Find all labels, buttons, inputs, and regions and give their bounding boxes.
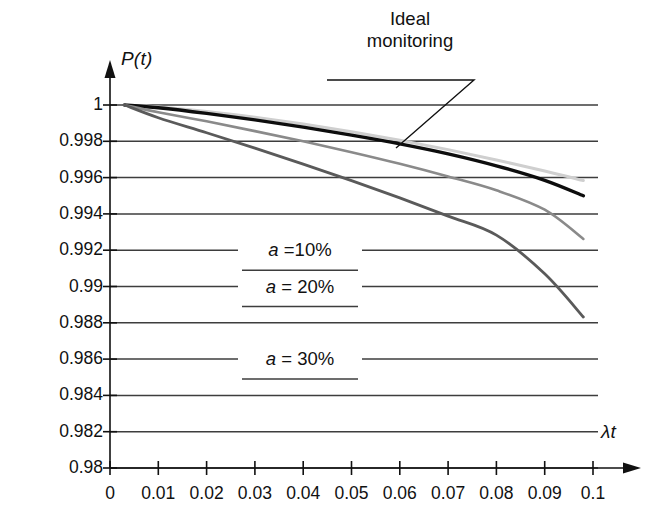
x-tick-label: 0.08 <box>479 485 513 503</box>
y-tick-label-wrap: 1 <box>0 105 103 106</box>
legend-value: =10% <box>279 239 332 260</box>
legend-entry-2: a = 20% <box>220 278 380 297</box>
y-tick-label: 0.986 <box>59 350 103 368</box>
y-tick-label: 0.994 <box>59 205 103 223</box>
x-tick-label: 0 <box>105 485 115 503</box>
y-axis-arrowhead <box>105 60 116 78</box>
y-tick-label: 0.988 <box>59 314 103 332</box>
y-tick-label-wrap: 0.998 <box>0 141 103 142</box>
y-tick-label: 0.984 <box>59 386 103 404</box>
x-tick-label: 0.01 <box>141 485 175 503</box>
x-tick-label: 0.06 <box>383 485 417 503</box>
legend-symbol-a: a <box>268 239 278 260</box>
y-tick-label: 0.98 <box>69 459 103 477</box>
y-tick-label-wrap: 0.982 <box>0 432 103 433</box>
y-tick-label-wrap: 0.99 <box>0 287 103 288</box>
y-axis-title: P(t) <box>121 48 152 70</box>
x-tick-label: 0.1 <box>581 485 605 503</box>
annotation-ideal-monitoring: Ideal monitoring <box>330 8 490 52</box>
y-tick-label-wrap: 0.996 <box>0 178 103 179</box>
legend-entry-3: a = 30% <box>220 350 380 369</box>
annotation-line-1: Ideal <box>330 8 490 30</box>
legend-value: = 20% <box>276 276 334 297</box>
annotation-leader-line <box>327 80 474 148</box>
y-tick-label-wrap: 0.984 <box>0 395 103 396</box>
x-axis-title: λt <box>601 421 616 443</box>
chart-figure: P(t) λt 10.9980.9960.9940.9920.990.9880.… <box>0 0 652 527</box>
x-tick-label: 0.03 <box>238 485 272 503</box>
legend-symbol-a: a <box>266 276 276 297</box>
y-tick-label-wrap: 0.994 <box>0 214 103 215</box>
x-tick-label: 0.02 <box>190 485 224 503</box>
legend-value: = 30% <box>276 348 334 369</box>
x-tick-label: 0.05 <box>334 485 368 503</box>
y-tick-label: 0.982 <box>59 423 103 441</box>
y-tick-label: 0.998 <box>59 132 103 150</box>
x-tick-label: 0.09 <box>528 485 562 503</box>
y-tick-label: 0.99 <box>69 278 103 296</box>
y-tick-label-wrap: 0.986 <box>0 359 103 360</box>
x-tick-label: 0.07 <box>431 485 465 503</box>
y-tick-label: 0.996 <box>59 169 103 187</box>
y-tick-label-wrap: 0.98 <box>0 468 103 469</box>
annotation-line-2: monitoring <box>330 30 490 52</box>
x-axis-arrowhead <box>623 463 641 474</box>
y-tick-label: 1 <box>93 96 103 114</box>
y-tick-label-wrap: 0.988 <box>0 323 103 324</box>
legend-symbol-a: a <box>266 348 276 369</box>
y-tick-label: 0.992 <box>59 241 103 259</box>
y-tick-label-wrap: 0.992 <box>0 250 103 251</box>
x-tick-label: 0.04 <box>286 485 320 503</box>
legend-entry-1: a =10% <box>220 241 380 260</box>
chart-canvas <box>0 0 652 527</box>
